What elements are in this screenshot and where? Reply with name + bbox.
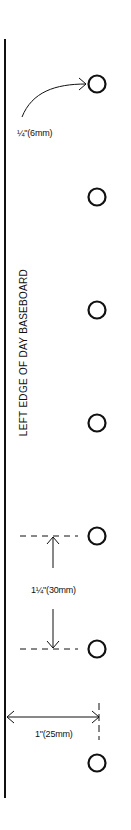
hole-5 [89, 528, 106, 545]
baseboard-edge-label: LEFT EDGE OF DAY BASEBOARD [18, 263, 29, 443]
hole-size-arrow [22, 84, 86, 117]
hole-spacing-label: 1¼"(30mm) [31, 585, 76, 595]
hole-6 [89, 641, 106, 658]
edge-offset-label: 1"(25mm) [35, 729, 73, 739]
hole-3 [89, 302, 106, 319]
hole-4 [89, 415, 106, 432]
holes [89, 76, 106, 772]
hole-1 [89, 76, 106, 93]
hole-7 [89, 755, 106, 772]
hole-2 [89, 189, 106, 206]
hole-size-label: ¼"(6mm) [17, 128, 52, 138]
